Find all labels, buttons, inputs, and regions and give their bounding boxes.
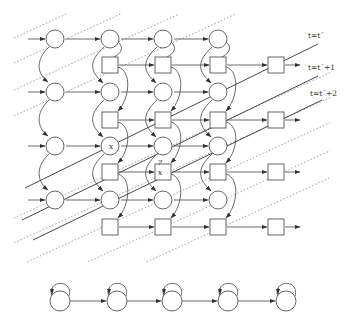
observation-node-square [102,112,118,128]
observation-node-square [155,57,171,73]
state-node-circle [154,137,172,155]
state-node-circle [46,191,64,209]
dashed-line [147,178,330,262]
observation-node-square [210,219,226,235]
x-mark: x [158,168,163,177]
time-label: t=t´+2 [310,89,337,98]
network-nodes [46,30,284,235]
observation-node-square [210,164,226,180]
dashed-line [14,14,179,90]
chain-state-circle [218,291,238,311]
observation-node-square [268,219,284,235]
observation-node-square [268,57,284,73]
transition-curve [171,122,181,163]
observation-node-square [210,57,226,73]
chain-state-circle [162,291,182,311]
state-node-circle [101,191,119,209]
state-node-circle [209,83,227,101]
transition-curve [39,47,49,82]
transition-curve [118,122,128,163]
transition-curve [171,67,181,111]
state-node-circle [46,30,64,48]
state-node-circle [46,83,64,101]
state-node-circle [101,83,119,101]
x-mark: x [109,142,114,151]
state-node-circle [209,30,227,48]
observation-node-square [268,164,284,180]
transition-curve [171,174,181,218]
state-node-circle [154,191,172,209]
observation-node-square [155,219,171,235]
time-label: t=t´+1 [308,63,335,72]
chain-state-circle [107,291,127,311]
state-node-circle [101,30,119,48]
bottom-markov-chain [50,283,296,311]
time-label: t=t´ [308,31,324,40]
transition-curve [118,67,128,111]
dashed-line [88,151,330,262]
dbn-diagram: t=t´t=t´+1t=t´+2 xx? [0,0,354,327]
transition-curve [39,100,49,136]
observation-node-square [155,112,171,128]
chain-state-circle [276,291,296,311]
time-labels: t=t´t=t´+1t=t´+2 [308,31,337,98]
state-node-circle [154,83,172,101]
chain-state-circle [50,291,70,311]
observation-node-square [102,57,118,73]
observation-node-square [210,112,226,128]
state-node-circle [209,191,227,209]
question-mark: ? [158,158,163,167]
state-node-circle [154,30,172,48]
transition-curve [226,67,236,111]
observation-node-square [102,164,118,180]
transition-curve [226,174,236,218]
state-node-circle [46,137,64,155]
state-node-circle [209,137,227,155]
observation-node-square [268,112,284,128]
observation-node-square [102,219,118,235]
transition-curve [39,154,49,190]
